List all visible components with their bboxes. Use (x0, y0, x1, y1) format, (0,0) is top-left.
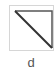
shape-tile[interactable] (9, 5, 54, 51)
tile-label: d (0, 56, 56, 70)
diagonal-triangle-icon (10, 6, 55, 52)
